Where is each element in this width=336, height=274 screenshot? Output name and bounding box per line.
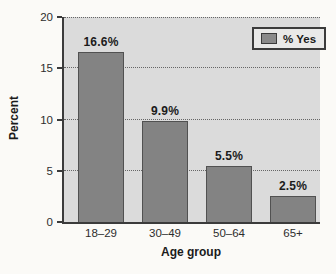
bar: [270, 196, 316, 222]
y-axis-tick: [57, 67, 62, 69]
y-tick-label: 10: [27, 113, 53, 127]
x-tick-label: 18–29: [70, 227, 132, 239]
legend-swatch-icon: [261, 33, 277, 44]
y-tick-label: 5: [27, 164, 53, 178]
y-tick-label: 15: [27, 61, 53, 75]
x-tick-label: 30–49: [134, 227, 196, 239]
y-tick-label: 20: [27, 10, 53, 24]
bar-value-label: 9.9%: [133, 104, 197, 118]
y-axis-tick: [57, 16, 62, 18]
bar: [78, 52, 124, 222]
bar: [206, 166, 252, 222]
legend: % Yes: [252, 27, 326, 50]
y-axis-title: Percent: [7, 96, 21, 140]
y-tick-label: 0: [27, 215, 53, 229]
y-axis-tick: [57, 119, 62, 121]
x-axis-title: Age group: [62, 245, 320, 259]
gridline: [64, 17, 320, 18]
x-tick-label: 50–64: [198, 227, 260, 239]
legend-entry-label: % Yes: [283, 33, 316, 45]
bar: [142, 121, 188, 222]
y-axis-tick: [57, 170, 62, 172]
y-axis-tick: [57, 221, 62, 223]
bar-value-label: 5.5%: [197, 149, 261, 163]
chart-page: Percent 16.6%9.9%5.5%2.5% % Yes Age grou…: [0, 0, 336, 274]
x-tick-label: 65+: [262, 227, 324, 239]
bar-value-label: 2.5%: [261, 179, 325, 193]
bar-value-label: 16.6%: [69, 35, 133, 49]
